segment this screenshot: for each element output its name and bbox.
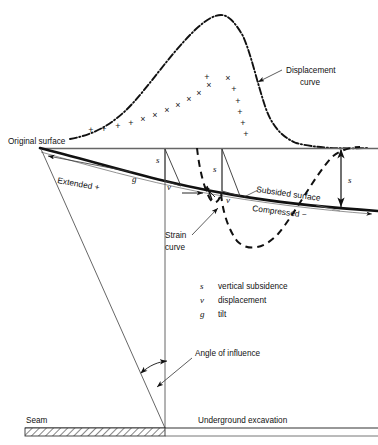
strain-curve-label-line2: curve	[165, 243, 185, 252]
svg-text:+: +	[128, 118, 133, 128]
angle-of-influence-arc	[141, 361, 167, 373]
legend-description-1: displacement	[218, 296, 267, 305]
legend: s vertical subsidence v displacement g t…	[200, 281, 288, 319]
svg-text:×: ×	[196, 88, 201, 98]
original-surface-label: Original surface	[8, 137, 66, 146]
origin-pointer-arrow	[48, 156, 132, 172]
symbol-s-right: s	[348, 175, 352, 185]
svg-text:+: +	[115, 121, 120, 131]
subsidence-diagram: + + + + × × × × × × × + × + + + + +	[0, 0, 378, 445]
svg-text:+: +	[243, 129, 248, 139]
svg-text:+: +	[204, 72, 209, 82]
svg-text:+: +	[88, 125, 93, 135]
underground-excavation-label: Underground excavation	[198, 416, 288, 425]
symbol-s-left: s	[156, 155, 160, 165]
seam-label: Seam	[26, 416, 48, 425]
symbol-g-tilt: g	[132, 174, 137, 184]
strain-curve	[197, 147, 360, 248]
diagram-canvas: + + + + × × × × × × × + × + + + + +	[0, 0, 378, 445]
legend-symbol-2: g	[200, 309, 205, 319]
label-leader-lines	[157, 70, 340, 387]
displacement-curve-label-line1: Displacement	[286, 66, 336, 75]
symbol-s-mid: s	[213, 164, 217, 174]
svg-text:×: ×	[225, 73, 230, 83]
extended-label: Extended +	[57, 175, 101, 192]
svg-text:+: +	[240, 118, 245, 128]
subsided-surface-line	[40, 148, 378, 211]
excavation-lines	[25, 428, 378, 436]
legend-symbol-1: v	[200, 295, 204, 305]
svg-text:+: +	[237, 107, 242, 117]
svg-text:+: +	[231, 84, 236, 94]
svg-text:×: ×	[152, 110, 157, 120]
svg-text:+: +	[101, 124, 106, 134]
legend-description-0: vertical subsidence	[218, 282, 288, 291]
displacement-curve-label-line2: curve	[300, 78, 320, 87]
seam-hatched-block	[25, 428, 165, 436]
svg-text:×: ×	[186, 94, 191, 104]
symbol-v-mid: v	[226, 195, 230, 205]
svg-text:×: ×	[175, 100, 180, 110]
legend-description-2: tilt	[218, 310, 227, 319]
angle-of-influence-label: Angle of influence	[195, 349, 261, 358]
strain-curve-label-line1: Strain	[165, 231, 187, 240]
svg-text:×: ×	[140, 114, 145, 124]
symbol-v-left: v	[167, 182, 171, 192]
angle-of-influence-lines	[41, 149, 165, 428]
legend-symbol-0: s	[200, 281, 204, 291]
svg-text:×: ×	[164, 105, 169, 115]
observed-point-markers: + + + + × × × × × × × + × + + + + +	[88, 72, 248, 139]
svg-text:+: +	[235, 96, 240, 106]
vector-triangle-mid	[222, 149, 240, 196]
